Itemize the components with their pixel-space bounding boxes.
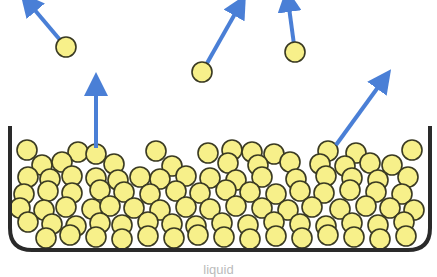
liquid-molecules — [10, 140, 424, 249]
molecule — [176, 197, 196, 217]
molecule — [340, 180, 360, 200]
molecule — [112, 229, 132, 249]
molecule — [240, 229, 260, 249]
molecule — [36, 228, 56, 248]
molecule — [138, 226, 158, 246]
molecule — [402, 140, 422, 160]
molecule — [226, 196, 246, 216]
molecule — [370, 229, 390, 249]
molecule — [18, 212, 38, 232]
molecule — [356, 196, 376, 216]
molecule — [146, 141, 166, 161]
molecule — [214, 227, 234, 247]
molecule — [344, 227, 364, 247]
escaping-molecules — [56, 37, 305, 82]
velocity-arrow-icon — [336, 79, 384, 145]
molecule — [192, 62, 212, 82]
molecule — [318, 225, 338, 245]
liquid-caption: liquid — [0, 262, 437, 277]
molecule — [17, 140, 37, 160]
molecule — [56, 197, 76, 217]
molecule — [56, 37, 76, 57]
molecule — [60, 225, 80, 245]
molecule — [188, 225, 208, 245]
molecule — [198, 143, 218, 163]
molecule — [292, 228, 312, 248]
velocity-arrow-icon — [202, 5, 240, 72]
molecule — [266, 226, 286, 246]
molecule — [86, 227, 106, 247]
molecule — [164, 228, 184, 248]
molecule — [38, 181, 58, 201]
molecule — [302, 197, 322, 217]
molecule — [396, 226, 416, 246]
molecule — [285, 42, 305, 62]
